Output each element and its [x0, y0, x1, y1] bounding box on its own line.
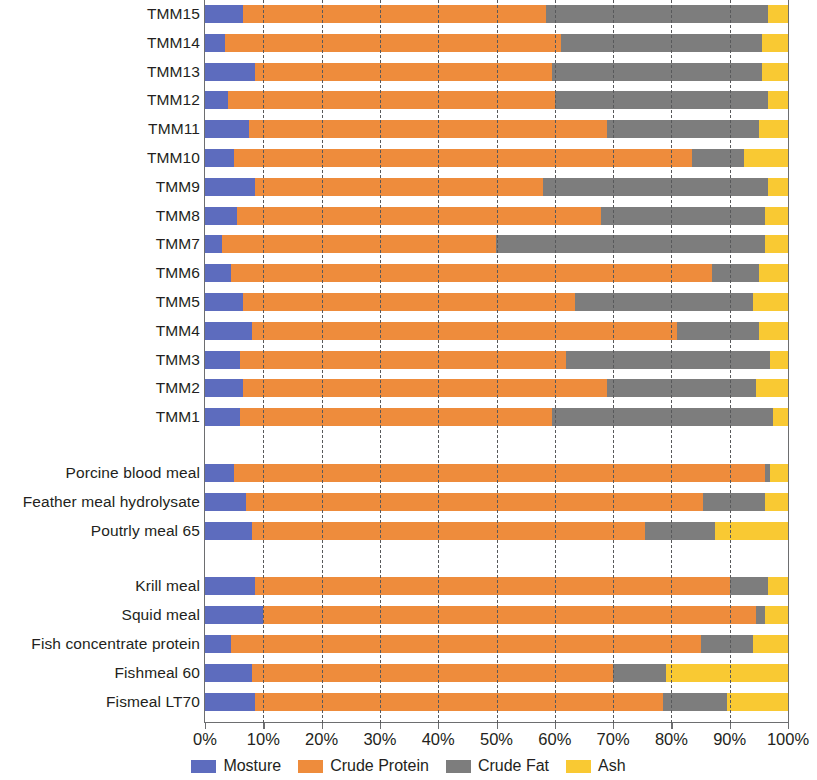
gridline [788, 0, 789, 723]
category-label: Krill meal [4, 577, 200, 595]
bar-segment-mosture [205, 322, 252, 340]
legend-label: Mosture [223, 757, 281, 775]
bar-segment-mosture [205, 606, 263, 624]
category-label: Squid meal [4, 606, 200, 624]
bar-segment-crude-protein [255, 63, 552, 81]
category-label: TMM7 [4, 235, 200, 253]
gridline [613, 0, 614, 723]
bar-segment-mosture [205, 34, 225, 52]
bar-segment-crude-protein [237, 207, 601, 225]
legend-swatch-icon [191, 760, 216, 773]
bar-segment-mosture [205, 664, 252, 682]
category-label: Fishmeal 60 [4, 664, 200, 682]
bar-segment-ash [770, 351, 787, 369]
gridline [555, 0, 556, 723]
bar-segment-ash [765, 207, 788, 225]
gridline [671, 0, 672, 723]
bar-segment-ash [753, 635, 788, 653]
category-label: TMM13 [4, 63, 200, 81]
bar-segment-mosture [205, 408, 240, 426]
bar-segment-crude-protein [255, 577, 730, 595]
gridline [730, 0, 731, 723]
bar-segment-crude-fat [677, 322, 759, 340]
bar-segment-ash [762, 63, 788, 81]
bar-segment-ash [756, 379, 788, 397]
bar-segment-ash [715, 522, 788, 540]
category-label: TMM2 [4, 379, 200, 397]
category-label: Porcine blood meal [4, 464, 200, 482]
category-label: TMM6 [4, 264, 200, 282]
bar-segment-crude-protein [243, 293, 575, 311]
bar-segment-crude-protein [255, 178, 544, 196]
category-label: TMM5 [4, 293, 200, 311]
bar-segment-crude-protein [243, 5, 546, 23]
legend-item[interactable]: Mosture [191, 757, 281, 775]
x-axis-tick-label: 10% [247, 729, 280, 749]
category-label: TMM3 [4, 351, 200, 369]
x-axis-tick-label: 80% [655, 729, 688, 749]
bar-segment-crude-protein [231, 635, 700, 653]
legend-item[interactable]: Ash [566, 757, 626, 775]
x-axis-tick-label: 70% [597, 729, 630, 749]
bar-segment-mosture [205, 120, 249, 138]
bar-segment-crude-fat [645, 522, 715, 540]
bar-segment-crude-fat [692, 149, 744, 167]
bar-segment-crude-fat [561, 34, 762, 52]
bar-segment-mosture [205, 264, 231, 282]
category-label: TMM12 [4, 91, 200, 109]
bar-segment-crude-fat [555, 91, 768, 109]
bar-segment-ash [759, 264, 788, 282]
legend-swatch-icon [566, 760, 591, 773]
legend-label: Ash [598, 757, 626, 775]
bar-segment-mosture [205, 464, 234, 482]
bar-segment-ash [768, 178, 788, 196]
legend-label: Crude Protein [330, 757, 429, 775]
stacked-bar-chart: TMM15TMM14TMM13TMM12TMM11TMM10TMM9TMM8TM… [0, 0, 817, 780]
legend-swatch-icon [298, 760, 323, 773]
category-label: TMM10 [4, 149, 200, 167]
bar-segment-crude-fat [613, 664, 665, 682]
bar-segment-mosture [205, 5, 243, 23]
bar-segment-mosture [205, 493, 246, 511]
legend-item[interactable]: Crude Protein [298, 757, 429, 775]
bar-segment-ash [666, 664, 788, 682]
bar-segment-crude-fat [601, 207, 764, 225]
bar-segment-crude-fat [607, 120, 759, 138]
bar-segment-crude-protein [249, 120, 608, 138]
x-axis-tick-label: 90% [713, 729, 746, 749]
bar-segment-crude-protein [240, 408, 552, 426]
bar-segment-crude-protein [252, 664, 613, 682]
bar-segment-ash [727, 693, 788, 711]
bar-segment-ash [765, 606, 788, 624]
x-axis-tick-label: 40% [422, 729, 455, 749]
bar-segment-crude-fat [712, 264, 759, 282]
category-label: TMM11 [4, 120, 200, 138]
bar-segment-ash [753, 293, 788, 311]
bar-segment-crude-protein [234, 464, 765, 482]
bar-segment-crude-fat [546, 5, 768, 23]
chart-legend: MostureCrude ProteinCrude FatAsh [0, 757, 817, 775]
category-label: TMM4 [4, 322, 200, 340]
bar-segment-crude-fat [575, 293, 753, 311]
bar-segment-crude-fat [730, 577, 768, 595]
bar-segment-crude-fat [703, 493, 764, 511]
bar-segment-crude-fat [701, 635, 753, 653]
bar-segment-crude-protein [252, 522, 646, 540]
bar-segment-crude-protein [234, 149, 692, 167]
category-label: TMM1 [4, 408, 200, 426]
category-label: TMM8 [4, 207, 200, 225]
bar-segment-mosture [205, 235, 222, 253]
bar-segment-crude-protein [231, 264, 712, 282]
bar-segment-mosture [205, 635, 231, 653]
bar-segment-ash [773, 408, 788, 426]
bar-segment-crude-protein [255, 693, 663, 711]
bar-segment-mosture [205, 91, 228, 109]
legend-item[interactable]: Crude Fat [446, 757, 549, 775]
bar-segment-crude-fat [756, 606, 765, 624]
category-label: Poutrly meal 65 [4, 522, 200, 540]
x-axis-tick-label: 30% [363, 729, 396, 749]
bar-segment-ash [765, 493, 788, 511]
bar-segment-crude-protein [246, 493, 704, 511]
category-label: TMM9 [4, 178, 200, 196]
bar-segment-crude-protein [240, 351, 566, 369]
